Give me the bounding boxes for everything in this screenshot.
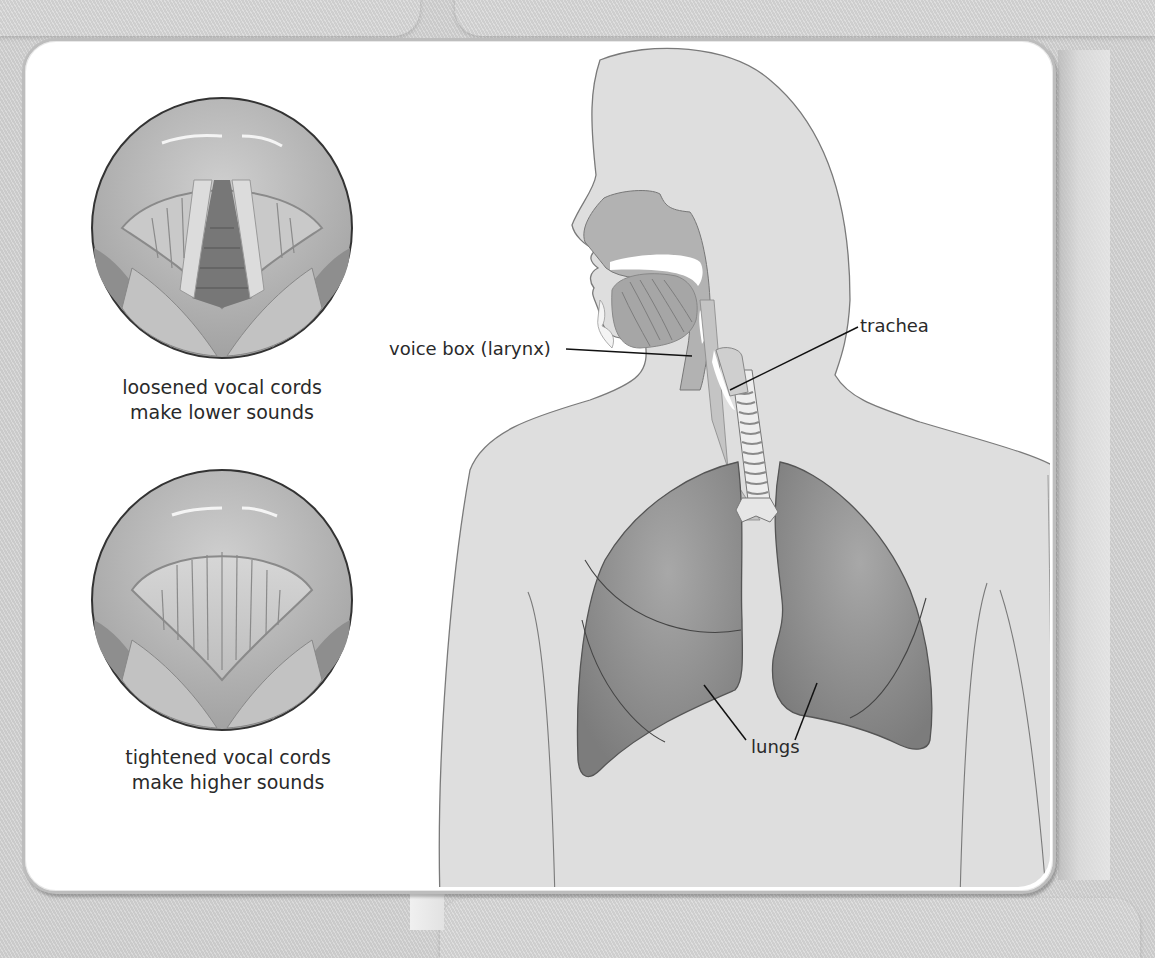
label-trachea: trachea: [860, 315, 929, 336]
label-lungs: lungs: [751, 736, 800, 757]
label-voice-box: voice box (larynx): [389, 338, 551, 359]
caption-tightened-line2: make higher sounds: [78, 770, 378, 795]
caption-loosened-line1: loosened vocal cords: [72, 375, 372, 400]
caption-loosened-line2: make lower sounds: [72, 400, 372, 425]
larynx-view-tightened: [92, 470, 352, 730]
caption-loosened: loosened vocal cords make lower sounds: [72, 375, 372, 425]
caption-tightened: tightened vocal cords make higher sounds: [78, 745, 378, 795]
caption-tightened-line1: tightened vocal cords: [78, 745, 378, 770]
body-silhouette: [439, 48, 1060, 900]
larynx-view-loosened: [92, 98, 352, 358]
